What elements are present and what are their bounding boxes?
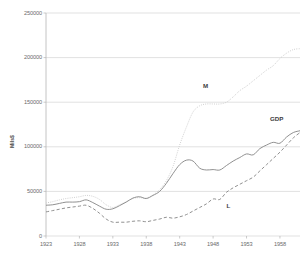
plot-area [0, 0, 307, 261]
y-tick-label: 150000 [6, 99, 42, 105]
line-chart: Mils$ 050000100000150000200000250000 192… [0, 0, 307, 261]
x-tick-label: 1958 [265, 241, 295, 247]
x-tick-label: 1933 [98, 241, 128, 247]
x-tick-label: 1948 [198, 241, 228, 247]
y-tick-label: 200000 [6, 54, 42, 60]
x-tick-label: 1923 [31, 241, 61, 247]
series-line-l [46, 133, 300, 223]
series-line-gdp [46, 131, 300, 210]
y-tick-label: 50000 [6, 188, 42, 194]
series-label-m: M [203, 82, 208, 89]
series-label-gdp: GDP [270, 115, 283, 122]
y-tick-label: 0 [6, 233, 42, 239]
x-tick-label: 1928 [64, 241, 94, 247]
x-tick-label: 1943 [165, 241, 195, 247]
y-tick-label: 250000 [6, 10, 42, 16]
series-label-l: L [226, 202, 230, 209]
x-tick-label: 1953 [232, 241, 262, 247]
x-tick-label: 1938 [131, 241, 161, 247]
series-line-m [46, 49, 300, 208]
y-tick-label: 100000 [6, 143, 42, 149]
